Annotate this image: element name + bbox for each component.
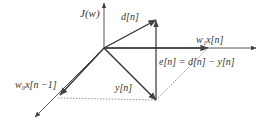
w0-component-vector [60,48,104,95]
desired-label: d[n] [121,12,139,22]
desired-vector [104,20,156,48]
projection-dotted-horizontal [58,98,156,100]
w0-component-label: w₀x[n −1] [15,80,57,90]
error-equation-label: e[n] = d[n] − y[n] [159,57,235,67]
output-label: y[n] [115,83,132,93]
w1-component-label: w₁x[n] [196,35,223,45]
cost-axis-label: J(w) [80,8,100,19]
